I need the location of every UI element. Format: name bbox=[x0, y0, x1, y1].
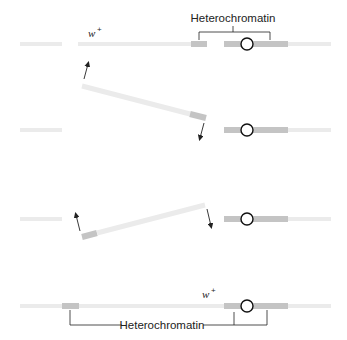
euchromatin-right-segment bbox=[288, 42, 331, 46]
euchromatin-right-segment bbox=[288, 128, 331, 132]
heterochromatin-block-centromeric bbox=[224, 127, 288, 133]
gene-label-w-plus: w bbox=[88, 27, 96, 39]
chromosome-inverted: w + Heterochromatin bbox=[20, 286, 331, 331]
released-segment bbox=[82, 86, 206, 118]
heterochromatin-bracket-top bbox=[199, 26, 270, 40]
arrow-down-icon bbox=[207, 209, 211, 226]
centromere-icon bbox=[241, 38, 253, 50]
gene-label-w-plus: w bbox=[202, 288, 210, 300]
centromere-icon bbox=[241, 300, 253, 312]
gene-label-superscript: + bbox=[97, 25, 102, 34]
rotating-segment bbox=[82, 205, 205, 237]
heterochromatin-block-centromeric bbox=[224, 216, 288, 222]
heterochromatin-label-bottom: Heterochromatin bbox=[119, 319, 204, 331]
chromosome-broken-stage bbox=[20, 86, 331, 138]
arrow-up-icon bbox=[76, 215, 80, 231]
euchromatin-left-segment bbox=[20, 42, 62, 46]
gene-label-superscript: + bbox=[211, 286, 216, 295]
euchromatin-right-segment bbox=[288, 217, 331, 221]
heterochromatin-block-small bbox=[191, 41, 207, 47]
heterochromatin-block-small bbox=[62, 303, 79, 309]
centromere-icon bbox=[241, 213, 253, 225]
centromere-icon bbox=[241, 124, 253, 136]
heterochromatin-label-top: Heterochromatin bbox=[190, 12, 275, 24]
chromosome-rotation-stage bbox=[20, 205, 331, 237]
inversion-diagram: w + Heterochromatin bbox=[0, 0, 347, 340]
arrow-down-icon bbox=[200, 123, 204, 138]
euchromatin-left-segment bbox=[20, 217, 62, 221]
heterochromatin-block-centromeric bbox=[224, 41, 288, 47]
arrow-up-icon bbox=[84, 64, 88, 79]
heterochromatin-block-centromeric bbox=[224, 303, 288, 309]
euchromatin-left-segment bbox=[20, 128, 62, 132]
euchromatin-middle-segment bbox=[78, 42, 192, 46]
chromosome-original: w + Heterochromatin bbox=[20, 12, 331, 50]
